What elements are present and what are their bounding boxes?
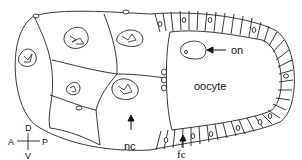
- nurse-cell-boundaries: [34, 14, 165, 145]
- axis-dorsal: D: [25, 123, 32, 133]
- egg-chamber-diagram: on oocyte nc fc D V A P: [0, 0, 302, 160]
- label-oocyte: oocyte: [194, 80, 226, 92]
- axis-posterior: P: [42, 137, 48, 147]
- oocyte-nucleus: [181, 41, 206, 59]
- nucleolus: [185, 51, 188, 54]
- nurse-cell-nuclei: [18, 27, 143, 99]
- label-oocyte-nucleus: on: [231, 44, 243, 56]
- follicle-cells-top: [155, 11, 293, 118]
- follicle-cells-bottom: [156, 114, 272, 150]
- axis-ventral: V: [25, 151, 31, 160]
- label-nurse-cells: nc: [124, 140, 136, 152]
- axis-anterior: A: [8, 137, 14, 147]
- label-follicle-cells: fc: [177, 148, 186, 160]
- axis-compass: D V A P: [8, 123, 48, 160]
